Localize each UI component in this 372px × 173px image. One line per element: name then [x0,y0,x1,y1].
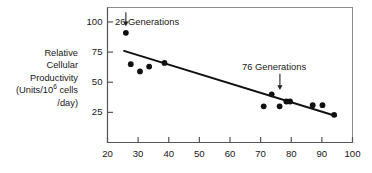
data-point-0 [123,30,129,36]
data-point-6 [269,91,275,97]
chart-figure: Relative Cellular Productivity (Units/10… [0,0,372,173]
data-points [123,30,337,118]
data-point-7 [277,103,283,109]
annot-76-generations-arrow-head [277,85,282,90]
data-point-2 [137,68,143,74]
data-point-4 [162,60,168,66]
axis-ticks [108,22,353,143]
data-point-10 [310,102,316,108]
trend-line [124,51,336,116]
plot-frame [108,8,353,143]
data-point-1 [128,61,134,67]
plot-border [108,8,353,143]
data-point-9 [287,99,293,105]
annot-26-generations-arrow-head [123,21,128,26]
axis-lines [108,8,353,143]
data-point-12 [331,112,337,118]
plot-canvas [0,0,372,173]
annotation-arrows [123,12,282,90]
data-point-3 [146,64,152,70]
data-point-11 [320,102,326,108]
data-point-5 [261,103,267,109]
regression-line [124,51,336,116]
